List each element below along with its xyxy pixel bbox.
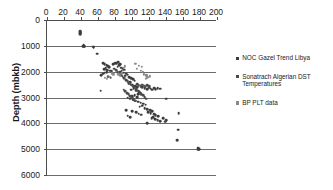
x-tick-mark [47,17,48,20]
data-point [81,45,84,48]
chart-legend: NOC Gazel Trend LibyaSonatrach Algerian … [236,54,331,117]
data-point [165,97,168,100]
x-tick-mark [64,17,65,20]
data-point [197,148,200,151]
data-point [105,78,107,80]
data-point [149,75,151,77]
y-tick-label: 2000 [0,67,40,77]
data-point [96,52,99,55]
gridline [47,72,216,73]
x-tick-label: 0 [44,7,49,17]
data-point [150,117,153,120]
data-point [176,139,179,142]
data-point [138,65,140,67]
x-tick-mark [132,17,133,20]
x-tick-mark [183,17,184,20]
x-tick-label: 120 [141,7,155,17]
y-tick-label: 5000 [0,144,40,154]
y-tick-mark [44,175,47,176]
x-tick-label: 80 [109,7,118,17]
x-tick-label: 40 [75,7,84,17]
data-point [146,76,148,78]
data-point [145,97,148,100]
data-point [157,115,160,118]
y-tick-mark [44,149,47,150]
data-point [140,113,143,116]
y-tick-mark [44,123,47,124]
gridline [47,20,216,21]
data-point [131,110,134,113]
legend-item[interactable]: Sonatrach Algerian DST Temperatures [236,73,331,88]
data-point [177,112,180,115]
data-point [129,116,132,119]
x-tick-label: 20 [58,7,67,17]
data-point [159,120,162,123]
y-tick-mark [44,72,47,73]
x-tick-mark [81,17,82,20]
data-point [79,33,82,36]
x-tick-mark [149,17,150,20]
plot-inner [47,20,216,175]
data-point [124,65,126,67]
legend-label: Sonatrach Algerian DST Temperatures [242,73,331,88]
legend-item[interactable]: NOC Gazel Trend Libya [236,54,331,62]
gridline [47,149,216,150]
x-tick-label: 180 [192,7,206,17]
data-point [136,96,139,99]
data-point [125,109,128,112]
y-tick-mark [44,20,47,21]
gridline [47,123,216,124]
data-point [92,46,95,49]
gridline [47,46,216,47]
data-point [130,88,133,91]
legend-marker-icon [236,101,239,104]
data-point [148,85,151,88]
y-tick-label: 0 [0,15,40,25]
legend-label: NOC Gazel Trend Libya [242,54,310,62]
legend-marker-icon [236,75,239,78]
data-point [177,128,180,131]
data-point [159,87,162,90]
x-tick-mark [98,17,99,20]
x-tick-mark [200,17,201,20]
data-point [164,120,167,123]
x-tick-label: 200 [209,7,223,17]
data-point [138,105,141,108]
data-point [149,112,152,115]
data-point [133,79,136,82]
data-point [146,121,149,124]
x-tick-label: 60 [92,7,101,17]
data-point [116,65,119,68]
plot-area [46,20,216,175]
scatter-chart: Depth (mbkb) 020406080100120140160180200… [0,0,333,190]
x-tick-label: 100 [124,7,138,17]
x-tick-label: 140 [158,7,172,17]
legend-item[interactable]: BP PLT data [236,99,331,107]
y-tick-mark [44,98,47,99]
legend-marker-icon [236,57,239,60]
x-tick-mark [166,17,167,20]
y-tick-label: 3000 [0,93,40,103]
x-tick-mark [217,17,218,20]
data-point [136,68,138,70]
data-point [144,78,146,80]
data-point [112,73,114,75]
y-tick-label: 1000 [0,41,40,51]
y-tick-mark [44,46,47,47]
data-point [134,63,136,65]
data-point [134,99,137,102]
x-tick-label: 160 [175,7,189,17]
data-point [141,66,143,68]
x-tick-mark [115,17,116,20]
legend-label: BP PLT data [242,99,278,107]
y-tick-label: 4000 [0,118,40,128]
data-point [100,74,103,77]
gridline [47,175,216,176]
y-tick-label: 6000 [0,170,40,180]
data-point [99,89,102,92]
